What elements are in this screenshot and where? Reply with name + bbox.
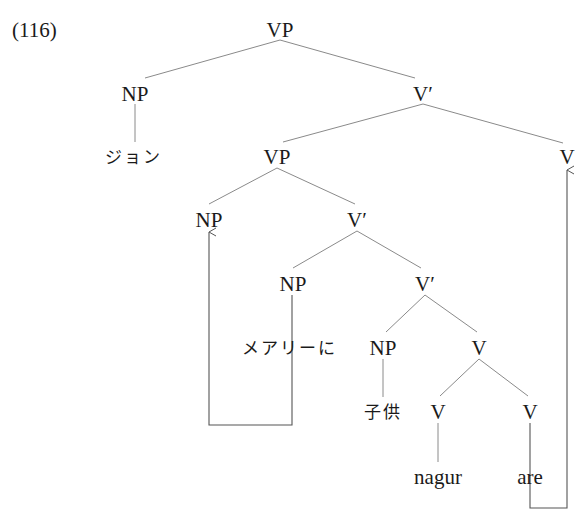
node-np-trace: NP — [196, 210, 223, 231]
node-v-4: V — [471, 338, 486, 359]
branch-vp2-vbar2 — [277, 168, 355, 204]
branch-v4-v5 — [440, 359, 479, 396]
leaf-john: ジョン — [105, 149, 162, 166]
branch-vbar3-np — [386, 295, 425, 332]
leaf-nagur: nagur — [414, 467, 462, 488]
movement-arrow-v — [530, 170, 567, 508]
movement-arrow-np — [209, 232, 292, 425]
leaf-are: are — [517, 467, 543, 488]
node-vbar-2: V′ — [347, 210, 367, 231]
node-v-6: V — [522, 402, 537, 423]
node-vbar-1: V′ — [413, 84, 433, 105]
node-root-vp: VP — [267, 20, 294, 41]
tree-branches — [0, 0, 584, 520]
leaf-mary-ni: メアリーに — [242, 340, 337, 357]
node-v-5: V — [430, 402, 445, 423]
leaf-child: 子供 — [364, 404, 402, 421]
branch-vp2-np — [209, 168, 277, 204]
node-np-subject: NP — [122, 84, 149, 105]
node-np-child: NP — [370, 338, 397, 359]
branch-vbar2-np — [293, 231, 357, 268]
node-vbar-3: V′ — [415, 274, 435, 295]
branch-vp-np — [145, 40, 280, 78]
branch-vbar1-v — [423, 104, 563, 143]
node-v-landing: V — [559, 147, 574, 168]
branch-vbar2-vbar3 — [357, 231, 421, 268]
branch-v4-v6 — [479, 359, 528, 396]
node-vp-2: VP — [264, 147, 291, 168]
branch-vbar3-v4 — [425, 295, 477, 332]
node-np-mary: NP — [280, 274, 307, 295]
branch-vbar1-vp2 — [283, 104, 423, 142]
branch-vp-vbar1 — [280, 40, 415, 78]
